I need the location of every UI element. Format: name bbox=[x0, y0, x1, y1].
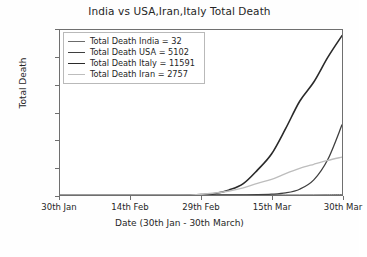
legend-line-swatch bbox=[68, 74, 85, 75]
legend-item: Total Death Iran = 2757 bbox=[68, 69, 199, 80]
x-axis-tick-label: 14th Feb bbox=[90, 203, 170, 212]
legend-label: Total Death USA = 5102 bbox=[90, 48, 189, 56]
legend-item: Total Death USA = 5102 bbox=[68, 47, 199, 58]
legend-item: Total Death Italy = 11591 bbox=[68, 58, 199, 69]
legend-line-swatch bbox=[68, 41, 85, 42]
x-axis-tick-label: 30th Jan bbox=[19, 203, 99, 212]
x-axis-tick-label: 15th Mar bbox=[232, 203, 312, 212]
legend-label: Total Death Italy = 11591 bbox=[90, 59, 195, 67]
y-axis-label: Total Death bbox=[18, 23, 28, 143]
legend-item: Total Death India = 32 bbox=[68, 36, 199, 47]
x-axis-tick-mark bbox=[272, 196, 273, 200]
x-axis-tick-label: 29th Feb bbox=[161, 203, 241, 212]
legend-label: Total Death India = 32 bbox=[90, 37, 182, 45]
legend-label: Total Death Iran = 2757 bbox=[90, 70, 188, 78]
x-axis-label: Date (30th Jan - 30th March) bbox=[0, 218, 359, 228]
legend-line-swatch bbox=[68, 63, 85, 64]
x-axis-tick-mark bbox=[59, 196, 60, 200]
x-axis-tick-label: 30th Mar bbox=[303, 203, 367, 212]
legend-line-swatch bbox=[68, 52, 85, 53]
x-axis-tick-mark bbox=[343, 196, 344, 200]
x-axis-tick-mark bbox=[201, 196, 202, 200]
series-line bbox=[60, 125, 342, 195]
chart-legend: Total Death India = 32Total Death USA = … bbox=[63, 32, 205, 84]
x-axis-tick-mark bbox=[130, 196, 131, 200]
chart-title: India vs USA,Iran,Italy Total Death bbox=[0, 5, 359, 17]
